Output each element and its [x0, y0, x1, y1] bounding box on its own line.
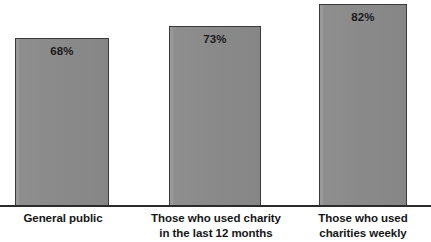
tick-label-line: charities weekly	[296, 226, 430, 241]
category-axis-labels: General public Those who used charity in…	[0, 209, 431, 242]
tick-label-line: in the last 12 months	[141, 226, 291, 241]
tick-label-general-public: General public	[2, 211, 124, 226]
tick-label-line: Those who used	[296, 211, 430, 226]
tick-label-used-charities-weekly: Those who used charities weekly	[296, 211, 430, 240]
tick-label-line: Those who used charity	[141, 211, 291, 226]
bar-general-public: 68%	[15, 38, 109, 206]
bar-used-charities-weekly: 82%	[319, 4, 407, 206]
plot-area: 68% 73% 82%	[0, 0, 431, 207]
bar-value-label: 73%	[170, 34, 260, 46]
category-axis-line	[0, 205, 431, 207]
bar-chart: 68% 73% 82% General public Those who use…	[0, 0, 431, 242]
tick-label-used-charity-12-months: Those who used charity in the last 12 mo…	[141, 211, 291, 240]
tick-label-line: General public	[2, 211, 124, 226]
bar-used-charity-12-months: 73%	[169, 26, 261, 206]
bar-value-label: 68%	[16, 46, 108, 58]
bar-value-label: 82%	[320, 12, 406, 24]
